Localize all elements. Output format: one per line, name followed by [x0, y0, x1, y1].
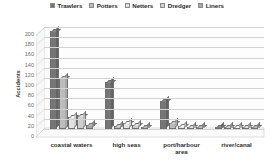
bar-slot: [58, 78, 67, 130]
gridline: [44, 78, 264, 79]
y-axis-tick: 100: [25, 83, 34, 89]
accidents-by-location-bar-chart: TrawlersPottersNettersDredgerLiners 0204…: [0, 0, 274, 167]
legend-entry-netters[interactable]: Netters: [125, 2, 153, 9]
gridline: [44, 109, 264, 110]
y-axis-tick: 0: [31, 134, 34, 140]
legend-label: Liners: [206, 2, 224, 9]
gridline: [44, 37, 264, 38]
legend-entry-dredger[interactable]: Dredger: [160, 2, 191, 9]
bar-side-face: [111, 77, 114, 128]
gridline: [44, 88, 264, 89]
x-axis-label: river/canal: [209, 141, 264, 156]
legend-entry-trawlers[interactable]: Trawlers: [50, 2, 82, 9]
legend-entry-potters[interactable]: Potters: [89, 2, 117, 9]
bar-slot: [159, 101, 168, 129]
bar-side-face: [92, 120, 95, 128]
y-axis-tick: 20: [28, 124, 34, 130]
x-axis-labels: coastal watershigh seasport/harbourarear…: [44, 141, 264, 156]
chart-legend: TrawlersPottersNettersDredgerLiners: [0, 2, 274, 9]
bar-potters[interactable]: [59, 78, 66, 130]
legend-label: Dredger: [168, 2, 191, 9]
y-axis-tick: 200: [25, 32, 34, 38]
legend-swatch-potters-icon: [89, 3, 94, 8]
gridline: [44, 119, 264, 120]
y-axis-tick: 40: [28, 114, 34, 120]
bar-trawlers[interactable]: [160, 101, 167, 129]
gridline: [44, 68, 264, 69]
legend-label: Trawlers: [58, 2, 83, 9]
gridline: [44, 27, 264, 28]
legend-swatch-netters-icon: [125, 3, 130, 8]
legend-label: Potters: [97, 2, 118, 9]
y-axis-tick: 180: [25, 42, 34, 48]
bar-slot: [49, 31, 58, 129]
gridline: [44, 58, 264, 59]
bar-trawlers[interactable]: [50, 31, 57, 129]
y-axis-tick: 60: [28, 104, 34, 110]
legend-swatch-trawlers-icon: [50, 3, 55, 8]
y-axis-title: Accidents: [15, 70, 21, 98]
x-axis-label: coastal waters: [44, 141, 99, 156]
x-axis-label: port/harbourarea: [154, 141, 209, 156]
legend-entry-liners[interactable]: Liners: [198, 2, 224, 9]
y-axis-tick: 120: [25, 73, 34, 79]
x-axis-label: high seas: [99, 141, 154, 156]
legend-swatch-liners-icon: [198, 3, 203, 8]
y-axis-tick: 140: [25, 63, 34, 69]
gridline: [44, 129, 264, 130]
plot-area: 020406080100120140160180200: [36, 27, 264, 137]
legend-label: Netters: [132, 2, 153, 9]
legend-swatch-dredger-icon: [160, 3, 165, 8]
y-axis-tick: 160: [25, 53, 34, 59]
gridline: [44, 47, 264, 48]
gridline: [44, 98, 264, 99]
y-axis-tick: 80: [28, 93, 34, 99]
